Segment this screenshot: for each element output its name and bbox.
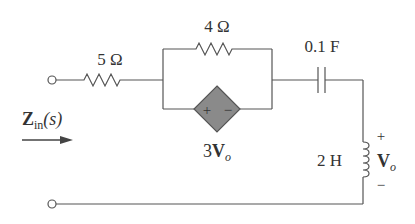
- r2-label: 4 Ω: [204, 17, 229, 36]
- resistor-5-ohm: [56, 74, 163, 86]
- zin-label: Zin(s): [22, 109, 62, 132]
- zin-arrow-icon: [22, 136, 73, 144]
- vo-label: Vo: [377, 151, 396, 174]
- vo-plus: +: [377, 128, 385, 144]
- r1-label: 5 Ω: [97, 50, 122, 69]
- dep-source-plus: +: [203, 102, 211, 118]
- inductor-2H: [363, 142, 369, 177]
- dependent-source-diamond: [194, 86, 240, 132]
- dep-source-label: 3Vo: [203, 141, 231, 164]
- circuit-diagram: 5 Ω 4 Ω + − 3Vo 0.1 F 2 H + Vo − Zin(s): [0, 0, 415, 224]
- vo-minus: −: [377, 177, 385, 193]
- dep-source-minus: −: [224, 102, 232, 118]
- c1-label: 0.1 F: [305, 37, 340, 56]
- l1-label: 2 H: [317, 151, 342, 170]
- resistor-4-ohm: [163, 43, 272, 55]
- capacitor-0-1F: [272, 67, 363, 93]
- input-terminal-bottom: [48, 200, 56, 208]
- input-terminal-top: [48, 76, 56, 84]
